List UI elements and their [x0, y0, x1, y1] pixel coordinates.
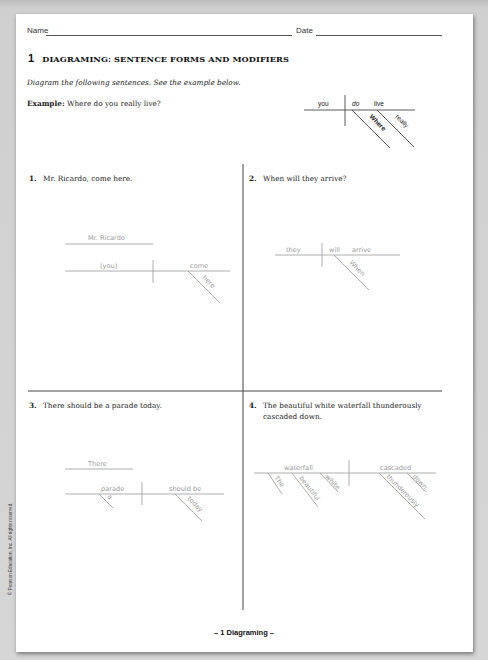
q1-address: Mr. Ricardo — [88, 234, 125, 242]
diagram-layer: you do live Where really Mr. Ricardo (yo… — [0, 0, 488, 660]
example-modifier-really: really — [394, 113, 411, 130]
q2-helper: will — [329, 246, 340, 254]
example-verb: live — [374, 100, 384, 107]
q3-verb-modifier: today — [186, 495, 205, 514]
q4-subject-modifier-the: The — [272, 474, 286, 489]
page-footer: – 1 Diagraming – — [0, 628, 488, 637]
example-subject: you — [318, 100, 329, 108]
q3-verb: should be — [169, 485, 201, 493]
q4-subject: waterfall — [284, 464, 313, 472]
q4-verb-modifier-down: down — [411, 473, 429, 491]
q2-subject: they — [286, 246, 301, 254]
q4-subject-modifier-beautiful: beautiful — [297, 474, 321, 502]
q4-subject-modifier-white: white — [324, 473, 342, 492]
q3-diagram — [65, 469, 224, 521]
q4-verb: cascaded — [380, 464, 411, 472]
q2-verb: arrive — [352, 246, 371, 254]
q1-subject: (you) — [100, 262, 117, 270]
copyright-text: © Pearson Education, Inc. All rights res… — [8, 503, 13, 596]
q3-subject: parade — [101, 485, 124, 493]
example-helper: do — [352, 100, 360, 107]
q2-modifier: When — [348, 259, 367, 278]
copyright-notice: © Pearson Education, Inc. All rights res… — [2, 470, 22, 595]
q3-expletive: There — [87, 460, 107, 468]
q1-modifier: here — [201, 274, 217, 290]
q1-verb: come — [190, 262, 208, 270]
